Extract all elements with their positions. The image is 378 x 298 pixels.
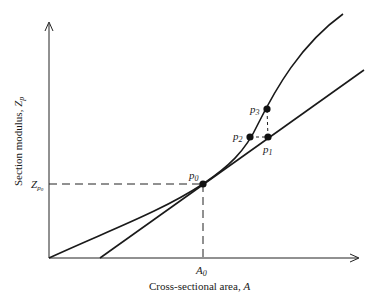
label-p3: p3	[249, 103, 260, 117]
point-p3	[263, 105, 270, 112]
tangent-line	[100, 70, 364, 258]
label-p1: p1	[262, 143, 273, 157]
y-axis-title: Section modulus, Zp	[12, 97, 26, 186]
point-p1	[264, 133, 271, 140]
label-p2: p2	[232, 130, 243, 144]
dashed-p1-p3	[267, 109, 268, 137]
x-tick-A0: A0	[195, 264, 207, 278]
label-p0: p0	[188, 169, 199, 183]
y-tick-Zp0: Zp0	[31, 178, 44, 192]
diagram-canvas: p0 p1 p2 p3 A0 Zp0 Cross-sectional area,…	[0, 0, 378, 298]
x-axis-title: Cross-sectional area, A	[149, 280, 250, 292]
point-p0	[199, 180, 206, 187]
section-modulus-curve	[49, 14, 343, 258]
point-p2	[246, 133, 253, 140]
